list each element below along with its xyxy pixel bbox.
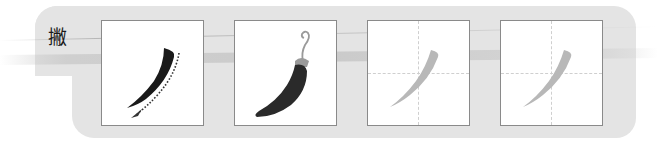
trace-box-2 <box>500 20 603 126</box>
stroke-name-label: 撇 <box>48 22 67 49</box>
trace-stroke-icon <box>368 21 471 127</box>
trace-box-1 <box>367 20 470 126</box>
trace-stroke-icon <box>501 21 604 127</box>
stroke-direction-icon <box>102 21 205 127</box>
pepper-analogy-box <box>234 20 337 126</box>
stroke-demo-box <box>101 20 204 126</box>
chili-pepper-icon <box>235 21 338 127</box>
